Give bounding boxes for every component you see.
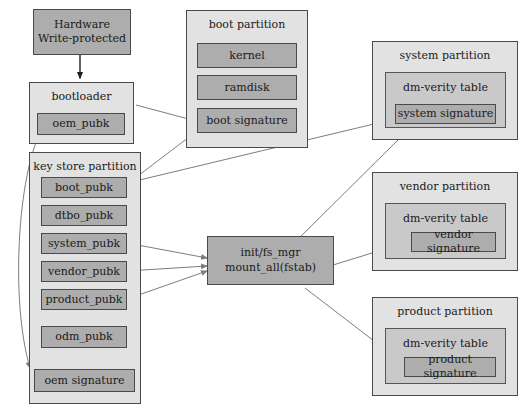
odm-pubk-label: odm_pubk	[55, 330, 112, 344]
product-dm-verity-title: dm-verity table	[386, 329, 505, 351]
system-pubk-node: system_pubk	[41, 233, 127, 254]
vendor-signature-label: vendor signature	[412, 228, 495, 256]
ramdisk-label: ramdisk	[224, 81, 269, 95]
oem-pubk-node: oem_pubk	[37, 113, 125, 135]
kernel-node: kernel	[197, 43, 297, 68]
oem-signature-label: oem signature	[44, 374, 124, 388]
oem-signature-node: oem signature	[34, 369, 135, 392]
vendor-pubk-label: vendor_pubk	[48, 265, 120, 279]
vendor-partition-title: vendor partition	[373, 173, 517, 194]
boot-signature-node: boot signature	[197, 108, 297, 133]
product-pubk-node: product_pubk	[41, 289, 127, 310]
system-partition-title: system partition	[373, 42, 517, 63]
bootloader-title: bootloader	[30, 83, 133, 104]
product-partition-title: product partition	[373, 298, 517, 319]
oem-pubk-label: oem_pubk	[53, 117, 110, 131]
vendor-signature-node: vendor signature	[411, 232, 496, 252]
ramdisk-node: ramdisk	[197, 75, 297, 100]
hardware-label-line1: Hardware	[38, 18, 126, 32]
boot-partition-title: boot partition	[187, 11, 307, 32]
boot-pubk-label: boot_pubk	[55, 181, 113, 195]
dtbo-pubk-node: dtbo_pubk	[41, 205, 127, 226]
init-label-line1: init/fs_mgr	[225, 246, 316, 260]
dtbo-pubk-label: dtbo_pubk	[55, 209, 113, 223]
key-store-title: key store partition	[30, 153, 140, 174]
odm-pubk-node: odm_pubk	[41, 326, 127, 348]
kernel-label: kernel	[229, 49, 265, 63]
boot-pubk-node: boot_pubk	[41, 177, 127, 198]
hardware-write-protected-node: Hardware Write-protected	[33, 9, 131, 55]
system-pubk-label: system_pubk	[48, 237, 120, 251]
system-signature-label: system signature	[398, 107, 493, 121]
boot-signature-label: boot signature	[206, 114, 287, 128]
product-signature-node: product signature	[404, 357, 496, 377]
vendor-dm-verity-title: dm-verity table	[386, 204, 505, 226]
vendor-pubk-node: vendor_pubk	[41, 261, 127, 282]
product-pubk-label: product_pubk	[46, 293, 123, 307]
init-label-line2: mount_all(fstab)	[225, 261, 316, 275]
hardware-label-line2: Write-protected	[38, 32, 126, 46]
verified-boot-diagram: Hardware Write-protected bootloader oem_…	[0, 0, 525, 412]
system-signature-node: system signature	[395, 104, 496, 124]
system-dm-verity-title: dm-verity table	[386, 73, 505, 95]
init-fs-mgr-node: init/fs_mgr mount_all(fstab)	[207, 236, 334, 285]
product-signature-label: product signature	[405, 353, 495, 381]
